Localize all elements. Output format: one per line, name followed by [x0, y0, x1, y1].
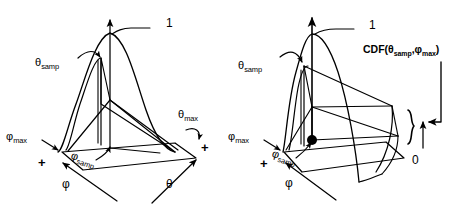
theta-axis-arrow: [152, 160, 196, 203]
cdf-range-brace: [408, 110, 414, 144]
theta-samp-label: θsamp: [35, 57, 59, 68]
cdf-back-curve: [289, 66, 308, 150]
theta-samp-plane: [101, 58, 175, 152]
ridge-right: [110, 100, 178, 150]
base-parallelogram: [284, 142, 404, 172]
phi-max-label: φmax: [228, 131, 249, 142]
mesh-line-a: [304, 66, 392, 106]
mesh-line-c: [312, 106, 392, 107]
cdf-bottom-skirt: [359, 174, 382, 182]
mesh-line-f: [286, 107, 312, 150]
mesh-line-d: [312, 107, 398, 136]
peak-leader: [112, 28, 150, 34]
phi-positive-sign: +: [38, 156, 46, 169]
theta-max-arrow: [186, 129, 199, 139]
cdf-expression-label: CDF(θsamp,φmax): [363, 44, 439, 55]
theta-samp-arrow: [78, 52, 100, 59]
phi-max-label: φmax: [6, 131, 27, 142]
cdf-leader-line: [429, 62, 441, 122]
theta-positive-sign: +: [201, 141, 209, 154]
phi-axis-label: φ: [62, 178, 70, 190]
mesh-line-h: [312, 136, 398, 140]
phi-axis-label: φ: [285, 177, 293, 189]
cdf-surface-drawing: [226, 0, 453, 214]
mesh-line-b: [304, 66, 312, 107]
phi-max-arrow: [42, 140, 58, 150]
phi-positive-sign: +: [260, 157, 268, 170]
theta-samp-label: θsamp: [238, 60, 262, 71]
theta-max-label: θmax: [178, 109, 198, 120]
pdf-surface-panel: 1 θsamp θmax φmax φsamp + + φ θ: [0, 0, 227, 214]
theta-axis-label: θ: [166, 178, 173, 190]
pdf-back-curve: [66, 58, 101, 150]
base-diagonal: [110, 148, 160, 153]
peak-value-label: 1: [166, 17, 173, 29]
figure-root: 1 θsamp θmax φmax φsamp + + φ θ: [0, 0, 453, 214]
pdf-surface-drawing: [0, 0, 227, 214]
cdf-zero-label: 0: [412, 154, 419, 166]
phi-samp-point-dot: [307, 135, 317, 145]
peak-value-label: 1: [369, 19, 376, 31]
peak-leader: [315, 29, 354, 34]
cdf-surface-panel: 1 θsamp CDF(θsamp,φmax) φmax φsamp + φ 0: [226, 0, 453, 214]
